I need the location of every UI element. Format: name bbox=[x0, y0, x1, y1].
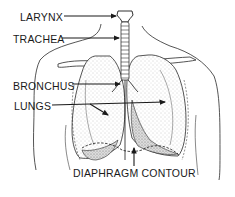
label-lungs: LUNGS bbox=[14, 101, 51, 112]
trachea-shape bbox=[121, 22, 129, 80]
larynx-shape bbox=[117, 11, 133, 22]
label-trachea: TRACHEA bbox=[13, 34, 65, 45]
label-diaphragm-contour: DIAPHRAGM CONTOUR bbox=[73, 168, 196, 179]
label-larynx: LARYNX bbox=[20, 12, 63, 23]
label-bronchus: BRONCHUS bbox=[13, 81, 75, 92]
left-lung bbox=[72, 56, 125, 160]
right-lung bbox=[127, 55, 189, 160]
